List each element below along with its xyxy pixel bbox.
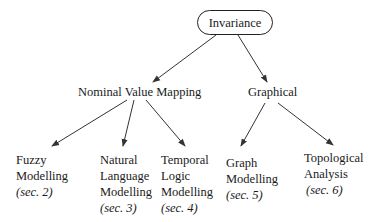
- leaf-natural-language-modelling: Natural Language Modelling (sec. 3): [100, 152, 152, 216]
- leaf-fuzzy-modelling: Fuzzy Modelling (sec. 2): [16, 152, 68, 200]
- section-ref: (sec. 3): [100, 200, 152, 216]
- edge-graphical-topological: [278, 103, 333, 145]
- leaf-text: Logic: [161, 168, 213, 184]
- leaf-text: Analysis: [304, 166, 364, 182]
- edge-nominal-fuzzy: [52, 100, 127, 146]
- leaf-text: Language: [100, 168, 152, 184]
- edge-nominal-temporal: [146, 100, 185, 146]
- leaf-temporal-logic-modelling: Temporal Logic Modelling (sec. 4): [161, 152, 213, 216]
- node-invariance: Invariance: [197, 10, 273, 35]
- leaf-graph-modelling: Graph Modelling (sec. 5): [226, 155, 278, 203]
- leaf-text: Modelling: [16, 168, 68, 184]
- leaf-text: Graph: [226, 155, 278, 171]
- leaf-text: Temporal: [161, 152, 213, 168]
- edge-invariance-graphical: [238, 35, 267, 82]
- section-ref: (sec. 5): [226, 187, 278, 203]
- leaf-text: Fuzzy: [16, 152, 68, 168]
- node-graphical: Graphical: [248, 84, 297, 100]
- leaf-text: Natural: [100, 152, 152, 168]
- leaf-text: Modelling: [161, 184, 213, 200]
- leaf-text: Modelling: [100, 184, 152, 200]
- edge-graphical-graph: [241, 103, 265, 146]
- section-ref: (sec. 2): [16, 184, 68, 200]
- edge-nominal-natural: [123, 100, 134, 146]
- section-ref: (sec. 6): [304, 182, 364, 198]
- edge-invariance-nominal: [153, 35, 216, 82]
- leaf-topological-analysis: Topological Analysis (sec. 6): [304, 150, 364, 198]
- leaf-text: Topological: [304, 150, 364, 166]
- leaf-text: Modelling: [226, 171, 278, 187]
- node-nominal-value-mapping: Nominal Value Mapping: [78, 84, 201, 100]
- section-ref: (sec. 4): [161, 200, 213, 216]
